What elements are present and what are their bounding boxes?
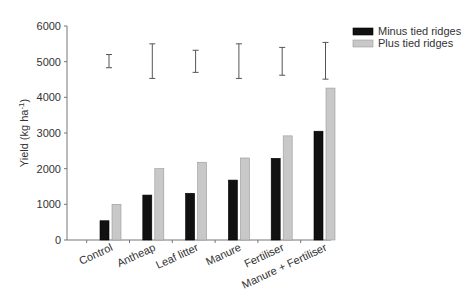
bar-minus-tied-ridges <box>228 180 237 240</box>
x-axis: ControlAntheapLeaf litterManureFertilise… <box>67 240 331 291</box>
y-tick-label: 0 <box>55 234 61 246</box>
y-tick-label: 5000 <box>37 56 61 68</box>
error-bar <box>323 42 329 79</box>
bar-plus-tied-ridges <box>155 169 164 240</box>
x-tick-label: Control <box>77 241 114 267</box>
error-bars <box>106 42 329 79</box>
y-tick-label: 4000 <box>37 91 61 103</box>
bar-minus-tied-ridges <box>100 221 109 240</box>
bar-minus-tied-ridges <box>314 131 323 240</box>
y-axis: 0100020003000400050006000 <box>37 20 67 246</box>
bar-plus-tied-ridges <box>198 162 207 240</box>
error-bar <box>106 55 112 68</box>
bar-minus-tied-ridges <box>143 195 152 240</box>
y-axis-title: Yield (kg ha-1) <box>17 99 30 167</box>
bar-plus-tied-ridges <box>283 136 292 240</box>
x-tick-label: Manure <box>204 241 243 268</box>
bar-chart: 0100020003000400050006000 ControlAntheap… <box>0 0 470 305</box>
bar-minus-tied-ridges <box>271 158 280 240</box>
legend-label: Minus tied ridges <box>378 25 462 37</box>
bar-plus-tied-ridges <box>112 204 121 240</box>
y-tick-label: 2000 <box>37 163 61 175</box>
x-tick-label: Leaf litter <box>154 241 200 271</box>
y-tick-label: 6000 <box>37 20 61 32</box>
bar-minus-tied-ridges <box>186 193 195 240</box>
error-bar <box>279 47 285 75</box>
legend-label: Plus tied ridges <box>378 37 454 49</box>
bar-plus-tied-ridges <box>326 88 335 240</box>
legend-swatch <box>353 40 373 47</box>
bar-plus-tied-ridges <box>240 158 249 240</box>
error-bar <box>236 44 242 79</box>
bars <box>100 88 335 240</box>
y-tick-label: 3000 <box>37 127 61 139</box>
x-tick-label: Antheap <box>115 241 157 269</box>
y-tick-label: 1000 <box>37 198 61 210</box>
legend: Minus tied ridgesPlus tied ridges <box>353 25 462 49</box>
error-bar <box>149 44 155 79</box>
error-bar <box>193 50 199 72</box>
legend-swatch <box>353 28 373 35</box>
